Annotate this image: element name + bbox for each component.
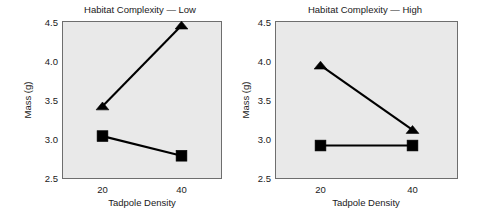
marker-square	[176, 150, 187, 161]
ylabel-high: Mass (g)	[240, 82, 251, 119]
xlabel-low: Tadpole Density	[108, 197, 176, 208]
ytick-label-low-0: 2.5	[45, 173, 58, 184]
marker-square	[407, 140, 418, 151]
ytick-label-high-1: 3.0	[258, 134, 271, 145]
ylabel-low: Mass (g)	[22, 82, 33, 119]
panel-title-high: Habitat Complexity — High	[308, 4, 422, 15]
marker-square	[97, 131, 108, 142]
xtick-label-low-1: 40	[176, 184, 187, 195]
xlabel-high: Tadpole Density	[332, 197, 400, 208]
xtick-label-high-1: 40	[407, 184, 418, 195]
chart-panel-low: Habitat Complexity — Low 4.5 4.0 3.5 3.0…	[0, 0, 239, 215]
ytick-label-low-3: 4.0	[45, 56, 58, 67]
ytick-label-low-2: 3.5	[45, 95, 58, 106]
ytick-label-high-0: 2.5	[258, 173, 271, 184]
ytick-label-high-4: 4.5	[258, 17, 271, 28]
ytick-label-high-2: 3.5	[258, 95, 271, 106]
chart-svg-high: Habitat Complexity — High 4.5 4.0 3.5 3.…	[239, 0, 478, 215]
xtick-labels-high: 20 40	[315, 184, 418, 195]
plot-area-high	[276, 22, 458, 179]
chart-panel-high: Habitat Complexity — High 4.5 4.0 3.5 3.…	[239, 0, 478, 215]
chart-svg-low: Habitat Complexity — Low 4.5 4.0 3.5 3.0…	[0, 0, 239, 215]
xtick-labels-low: 20 40	[97, 184, 187, 195]
figure-canvas: Habitat Complexity — Low 4.5 4.0 3.5 3.0…	[0, 0, 478, 215]
ytick-labels-low: 4.5 4.0 3.5 3.0 2.5	[45, 17, 58, 184]
ytick-label-low-1: 3.0	[45, 134, 58, 145]
plot-area-low	[63, 22, 222, 179]
ytick-label-low-4: 4.5	[45, 17, 58, 28]
marker-square	[315, 140, 326, 151]
panel-title-low: Habitat Complexity — Low	[84, 4, 196, 15]
ytick-label-high-3: 4.0	[258, 56, 271, 67]
ytick-labels-high: 4.5 4.0 3.5 3.0 2.5	[258, 17, 271, 184]
xtick-label-low-0: 20	[97, 184, 108, 195]
xtick-label-high-0: 20	[315, 184, 326, 195]
